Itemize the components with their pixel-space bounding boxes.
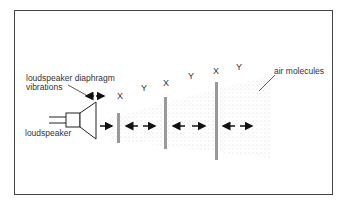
compression-band-2 [164,97,167,149]
diaphragm-pointer [68,85,86,95]
compression-band-1 [117,113,120,143]
region-label-y-1: Y [141,83,147,93]
air-molecules-label: air molecules [274,66,324,76]
loudspeaker-label: loudspeaker [25,128,71,138]
region-label-x-3: X [213,66,219,76]
region-label-y-2: Y [188,71,194,81]
region-label-x-2: X [163,78,169,88]
sound-wave-diagram [0,0,350,216]
region-label-y-3: Y [236,62,242,72]
air-molecules-cloud [110,75,270,158]
compression-band-3 [215,82,218,160]
diaphragm-label-line2: vibrations [26,82,62,92]
region-label-x-1: X [117,91,123,101]
